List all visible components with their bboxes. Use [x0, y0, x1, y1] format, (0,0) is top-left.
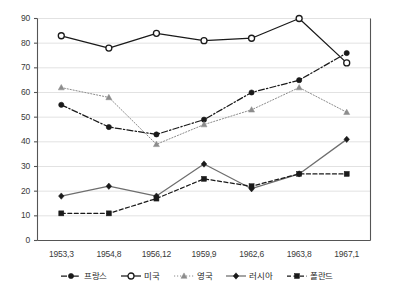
- data-point-filled-square: [59, 211, 64, 216]
- data-point-filled-circle: [59, 102, 64, 107]
- data-series-lines: [61, 19, 346, 214]
- data-point-filled-triangle: [58, 84, 64, 89]
- legend-point-filled-square: [294, 274, 299, 279]
- data-point-filled-triangle: [344, 109, 350, 114]
- data-point-markers: [58, 16, 349, 216]
- legend-marker-icon: [173, 271, 195, 281]
- data-point-filled-square: [344, 171, 349, 176]
- y-tick-label: 90: [8, 14, 30, 23]
- data-point-open-circle: [106, 45, 112, 51]
- data-point-filled-circle: [154, 132, 159, 137]
- series-line-3: [61, 139, 346, 196]
- data-point-open-circle: [58, 33, 64, 39]
- data-point-open-circle: [249, 35, 255, 41]
- legend-marker-icon: [286, 271, 308, 281]
- legend-marker-icon: [120, 271, 142, 281]
- line-chart: 0102030405060708090 1953,31954,81956,121…: [0, 0, 393, 299]
- data-point-filled-square: [106, 211, 111, 216]
- legend-item-1[interactable]: 미국: [120, 271, 160, 281]
- axis-frame: [38, 19, 371, 241]
- data-point-filled-circle: [106, 124, 111, 129]
- legend-label: 러시아: [249, 272, 272, 281]
- legend-marker-icon: [225, 271, 247, 281]
- data-point-filled-triangle: [249, 107, 255, 112]
- data-point-filled-square: [202, 176, 207, 181]
- data-point-filled-circle: [297, 78, 302, 83]
- y-tick-label: 60: [8, 88, 30, 97]
- y-tick-label: 70: [8, 63, 30, 72]
- legend-point-filled-circle: [68, 273, 73, 278]
- legend-marker-icon: [60, 271, 82, 281]
- data-point-open-circle: [296, 16, 302, 22]
- legend-label: 영국: [197, 272, 213, 281]
- legend-item-3[interactable]: 러시아: [225, 271, 272, 281]
- data-point-filled-square: [297, 171, 302, 176]
- y-tick-label: 10: [8, 211, 30, 220]
- data-point-open-circle: [201, 38, 207, 44]
- data-point-open-circle: [344, 60, 350, 66]
- y-tick-label: 0: [8, 236, 30, 245]
- legend-item-4[interactable]: 폴란드: [286, 271, 333, 281]
- data-point-filled-circle: [249, 90, 254, 95]
- y-tick-label: 40: [8, 137, 30, 146]
- y-tick-label: 80: [8, 39, 30, 48]
- data-point-filled-diamond: [106, 183, 112, 189]
- x-tick-label: 1967,1: [317, 250, 377, 259]
- legend-item-2[interactable]: 영국: [173, 271, 213, 281]
- data-point-filled-square: [249, 184, 254, 189]
- chart-legend: 프랑스미국영국러시아폴란드: [0, 271, 393, 281]
- y-tick-label: 30: [8, 162, 30, 171]
- data-point-filled-circle: [344, 50, 349, 55]
- legend-point-open-circle: [128, 273, 134, 279]
- data-point-filled-square: [154, 196, 159, 201]
- y-tick-label: 50: [8, 113, 30, 122]
- data-point-filled-diamond: [58, 193, 64, 199]
- data-point-open-circle: [153, 30, 159, 36]
- y-tick-label: 20: [8, 187, 30, 196]
- series-line-2: [61, 88, 346, 145]
- legend-point-filled-diamond: [234, 273, 240, 279]
- legend-label: 미국: [144, 272, 160, 281]
- legend-item-0[interactable]: 프랑스: [60, 271, 107, 281]
- data-point-filled-triangle: [296, 84, 302, 89]
- legend-label: 프랑스: [84, 272, 107, 281]
- legend-label: 폴란드: [310, 272, 333, 281]
